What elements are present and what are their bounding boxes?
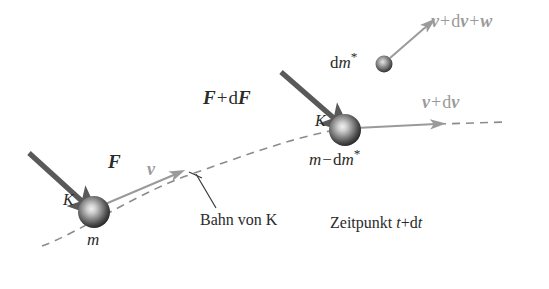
velocity-symbol-delta: v (451, 92, 459, 112)
body-sphere-t-dt (329, 114, 361, 146)
plus-operator-force: + (216, 87, 229, 108)
physics-diagram: F K m v F+dF K m−dm* v+dv dm* v+dv+w Bah… (0, 0, 549, 289)
differential-d-time: d (410, 214, 418, 231)
force-arrow-t (29, 153, 84, 203)
velocity-arrow-t (103, 174, 176, 205)
trajectory-dashed-path (42, 131, 330, 246)
differential-d-ejected-velocity: d (451, 11, 460, 31)
velocity-label-t: v (147, 160, 155, 178)
differential-d-force: d (228, 87, 238, 108)
force-arrow-t-dt (281, 72, 336, 120)
trajectory-caption: Bahn von K (200, 212, 277, 228)
body-symbol-t: K (63, 191, 74, 208)
mass-label-t: m (87, 231, 99, 248)
minus-operator-mass: − (321, 150, 333, 169)
velocity-symbol-base: v (422, 92, 430, 112)
body-label-t-dt: K (315, 113, 326, 129)
velocity-arrow-t-dt (356, 124, 436, 128)
ejected-mass-velocity-arrow (390, 25, 428, 58)
star-superscript-mass: * (354, 146, 361, 161)
ejected-velocity-label: v+dv+w (431, 12, 492, 30)
time-caption-word: Zeitpunkt (330, 214, 392, 231)
plus-operator-ejected-2: + (468, 11, 480, 31)
force-label-t: F (108, 152, 121, 171)
plus-operator-velocity: + (430, 92, 442, 112)
velocity-label-t-dt: v+dv (422, 93, 459, 111)
time-symbol-delta: t (418, 214, 422, 231)
ejected-mass-label: dm* (330, 50, 357, 71)
relative-velocity-symbol: w (480, 11, 492, 31)
differential-d-ejected: d (330, 53, 339, 72)
differential-d-velocity: d (442, 92, 451, 112)
ejected-mass-symbol: m (339, 53, 351, 72)
force-symbol-delta: F (238, 87, 251, 108)
plus-operator-ejected-1: + (439, 11, 451, 31)
mass-label-t-dt: m−dm* (309, 147, 360, 168)
diagram-vector-layer (0, 0, 549, 289)
trajectory-caption-text: Bahn von K (200, 211, 277, 228)
trajectory-caption-leader-line (196, 174, 216, 208)
star-superscript-ejected: * (351, 49, 358, 64)
force-symbol-t: F (108, 151, 121, 172)
mass-symbol-t: m (87, 230, 99, 249)
mass-symbol-delta: m (341, 150, 353, 169)
force-symbol-base: F (203, 87, 216, 108)
body-sphere-t (78, 196, 110, 228)
velocity-symbol-t: v (147, 159, 155, 179)
mass-symbol-base: m (309, 150, 321, 169)
body-symbol-t-dt: K (315, 112, 326, 129)
time-caption: Zeitpunkt t+dt (330, 215, 422, 231)
trajectory-dashed-continuation (438, 122, 507, 124)
force-label-t-dt: F+dF (203, 88, 251, 107)
ejected-mass-sphere (376, 56, 393, 73)
ejected-velocity-delta: v (460, 11, 468, 31)
ejected-velocity-base: v (431, 11, 439, 31)
plus-operator-time: + (401, 214, 410, 231)
body-label-t: K (63, 192, 74, 208)
